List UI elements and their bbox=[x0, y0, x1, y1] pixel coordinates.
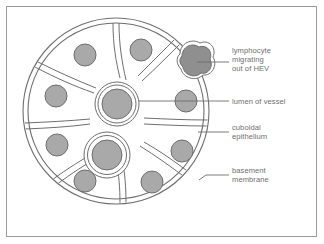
leader-basement bbox=[199, 175, 206, 180]
nucleus bbox=[141, 171, 163, 193]
figure-root: lymphocyte migrating out of HEV lumen of… bbox=[0, 0, 324, 244]
nucleus bbox=[130, 39, 152, 61]
label-basement-membrane: basement membrane bbox=[232, 166, 269, 184]
nucleus bbox=[46, 134, 68, 156]
upper-lumen bbox=[95, 82, 139, 126]
nucleus bbox=[171, 140, 193, 162]
label-cuboidal-epithelium: cuboidal epithelium bbox=[232, 123, 267, 141]
nucleus bbox=[74, 170, 96, 192]
lower-lumen bbox=[84, 132, 130, 178]
nucleus bbox=[74, 44, 96, 66]
label-lumen-of-vessel: lumen of vessel bbox=[232, 97, 286, 106]
hev-cross-section-diagram bbox=[0, 0, 324, 244]
label-lymphocyte-migrating-out-of-hev: lymphocyte migrating out of HEV bbox=[232, 46, 271, 74]
lymphocyte-cell bbox=[177, 41, 215, 79]
nucleus bbox=[45, 85, 67, 107]
